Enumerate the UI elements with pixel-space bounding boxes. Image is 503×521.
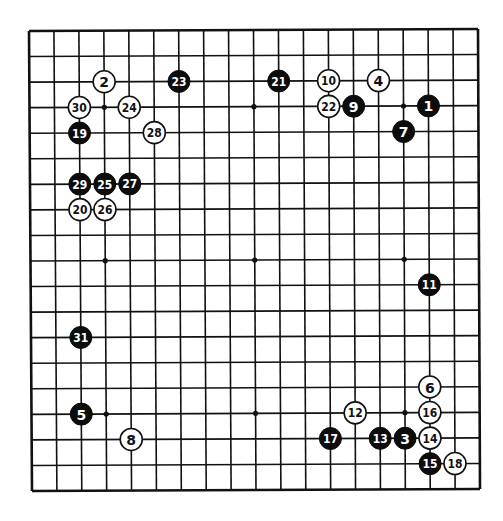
move-number: 6 (425, 380, 435, 396)
stone-white-move-22: 22 (318, 95, 340, 117)
stone-white-move-12: 12 (344, 402, 366, 424)
grid-line-horizontal (31, 387, 479, 389)
stone-black-move-17: 17 (319, 428, 341, 450)
move-number: 15 (423, 457, 438, 471)
stone-black-move-27: 27 (119, 173, 141, 195)
stone-black-move-29: 29 (69, 173, 91, 195)
stone-white-move-6: 6 (419, 376, 441, 398)
move-number: 27 (122, 177, 137, 191)
stone-black-move-5: 5 (70, 403, 92, 425)
move-number: 7 (399, 124, 409, 140)
move-number: 25 (97, 178, 112, 192)
grid-line-horizontal (32, 463, 480, 465)
stone-black-move-13: 13 (369, 427, 391, 449)
grid-line-vertical (378, 29, 380, 489)
grid-line-horizontal (31, 361, 479, 363)
star-point (103, 258, 108, 263)
move-number: 28 (147, 126, 162, 140)
stone-black-move-25: 25 (94, 173, 116, 195)
star-point (402, 410, 407, 415)
grid-line-horizontal (31, 310, 479, 312)
grid-line-horizontal (32, 489, 480, 491)
move-number: 22 (321, 100, 336, 114)
star-point (402, 257, 407, 262)
stone-black-move-9: 9 (343, 95, 365, 117)
move-number: 4 (374, 73, 384, 89)
move-number: 18 (447, 457, 462, 471)
grid-line-horizontal (31, 285, 479, 287)
move-number: 17 (323, 432, 338, 446)
stone-white-move-10: 10 (318, 70, 340, 92)
grid-line-horizontal (31, 336, 479, 338)
move-number: 26 (97, 203, 112, 217)
stone-black-move-21: 21 (268, 70, 290, 92)
stone-black-move-7: 7 (393, 121, 415, 143)
star-point (401, 103, 406, 108)
stone-black-move-3: 3 (394, 427, 416, 449)
go-board: 1234567891011121314151617181920212223242… (0, 0, 503, 521)
move-number: 1 (424, 98, 434, 114)
stone-white-move-28: 28 (143, 122, 165, 144)
move-number: 10 (321, 74, 336, 88)
move-number: 19 (72, 127, 87, 141)
stone-black-move-15: 15 (419, 453, 441, 475)
star-point (104, 411, 109, 416)
move-number: 5 (76, 407, 86, 423)
stone-black-move-19: 19 (69, 122, 91, 144)
move-number: 3 (400, 431, 410, 447)
stone-white-move-18: 18 (444, 453, 466, 475)
move-number: 20 (73, 203, 88, 217)
star-point (252, 257, 257, 262)
move-number: 11 (422, 278, 437, 292)
star-point (251, 104, 256, 109)
move-number: 16 (422, 406, 437, 420)
move-number: 24 (122, 101, 137, 115)
move-number: 14 (422, 432, 437, 446)
move-number: 12 (348, 406, 363, 420)
stone-black-move-23: 23 (168, 70, 190, 92)
star-point (253, 411, 258, 416)
move-number: 8 (126, 432, 136, 448)
grid-line-vertical (453, 29, 455, 489)
star-point (102, 105, 107, 110)
stone-black-move-11: 11 (418, 274, 440, 296)
stone-white-move-26: 26 (94, 199, 116, 221)
move-number: 30 (72, 101, 87, 115)
move-number: 2 (99, 74, 109, 90)
move-number: 13 (373, 432, 388, 446)
stone-white-move-20: 20 (69, 199, 91, 221)
stone-white-move-14: 14 (419, 427, 441, 449)
stone-white-move-4: 4 (367, 70, 389, 92)
move-number: 31 (73, 331, 88, 345)
move-number: 23 (171, 75, 186, 89)
move-number: 21 (271, 75, 286, 89)
stone-black-move-1: 1 (417, 95, 439, 117)
grid-line-vertical (478, 29, 480, 489)
stone-white-move-24: 24 (118, 96, 140, 118)
move-number: 29 (72, 178, 87, 192)
stone-black-move-31: 31 (70, 326, 92, 348)
stone-white-move-30: 30 (68, 96, 90, 118)
stone-white-move-2: 2 (93, 71, 115, 93)
stone-white-move-8: 8 (120, 428, 142, 450)
move-number: 9 (349, 99, 359, 115)
stone-white-move-16: 16 (419, 402, 441, 424)
